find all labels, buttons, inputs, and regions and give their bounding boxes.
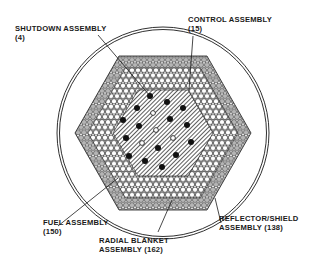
control-assembly-name: CONTROL ASSEMBLY bbox=[188, 15, 272, 24]
control-assembly-count: (15) bbox=[188, 24, 272, 33]
fuel-assembly-label: FUEL ASSEMBLY (150) bbox=[43, 218, 109, 236]
radial-blanket-name: RADIAL BLANKET bbox=[99, 236, 169, 245]
reflector-shield-name: REFLECTOR/SHIELD bbox=[219, 214, 298, 223]
shutdown-assembly-count: (4) bbox=[15, 33, 106, 42]
reflector-shield-label: REFLECTOR/SHIELD ASSEMBLY (138) bbox=[219, 214, 298, 232]
reflector-shield-count: ASSEMBLY (138) bbox=[219, 223, 298, 232]
fuel-assembly-name: FUEL ASSEMBLY bbox=[43, 218, 109, 227]
fuel-assembly-count: (150) bbox=[43, 227, 109, 236]
radial-blanket-count: ASSEMBLY (162) bbox=[99, 245, 169, 254]
shutdown-assembly-label: SHUTDOWN ASSEMBLY (4) bbox=[15, 24, 106, 42]
control-assembly-label: CONTROL ASSEMBLY (15) bbox=[188, 15, 272, 33]
shutdown-assembly-name: SHUTDOWN ASSEMBLY bbox=[15, 24, 106, 33]
radial-blanket-label: RADIAL BLANKET ASSEMBLY (162) bbox=[99, 236, 169, 254]
